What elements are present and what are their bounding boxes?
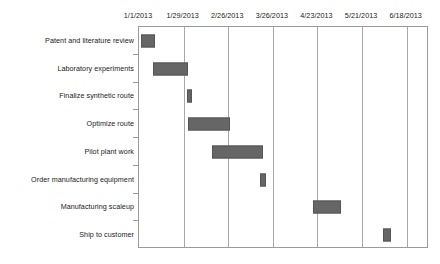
y-axis-task-labels: Patent and literature reviewLaboratory e… [0,26,134,248]
task-bar[interactable] [188,118,229,131]
task-label: Patent and literature review [0,35,134,44]
task-label: Laboratory experiments [0,63,134,72]
gantt-chart: 1/1/20131/29/20132/26/20133/26/20134/23/… [0,0,440,264]
x-axis-tick-label: 1/29/2013 [166,11,198,20]
x-axis-tick-label: 3/26/2013 [256,11,288,20]
task-bar[interactable] [187,90,192,103]
task-label: Manufacturing scaleup [0,202,134,211]
y-axis-tick [133,109,138,110]
gridline [184,27,185,247]
task-label: Optimize route [0,119,134,128]
task-label: Finalize synthetic route [0,91,134,100]
task-bar[interactable] [153,62,188,75]
task-bar[interactable] [313,201,342,214]
task-label: Ship to customer [0,230,134,239]
gridline [407,27,408,247]
x-axis-tick-label: 5/21/2013 [345,11,377,20]
task-label: Pilot plant work [0,146,134,155]
gridline [362,27,363,247]
x-axis-tick-label: 2/26/2013 [211,11,243,20]
gridline [273,27,274,247]
gridline [228,27,229,247]
y-axis-tick [133,193,138,194]
y-axis-tick [133,220,138,221]
y-axis-tick [133,165,138,166]
x-axis-tick-label: 1/1/2013 [124,11,152,20]
task-bar[interactable] [141,34,155,47]
task-bar[interactable] [383,229,391,242]
task-bar[interactable] [260,173,266,186]
plot-area [138,26,428,248]
x-axis-tick-label: 4/23/2013 [300,11,332,20]
x-axis-tick-label: 6/18/2013 [389,11,421,20]
task-label: Order manufacturing equipment [0,174,134,183]
y-axis-tick [133,137,138,138]
task-bar[interactable] [212,145,263,158]
x-axis-tick-labels: 1/1/20131/29/20132/26/20133/26/20134/23/… [0,0,440,26]
y-axis-tick [133,54,138,55]
gridline [317,27,318,247]
y-axis-tick [133,82,138,83]
